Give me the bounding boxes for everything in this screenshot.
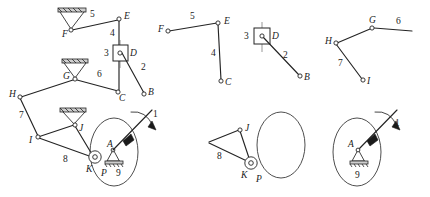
link-8-ij-jkp [209, 130, 239, 142]
panel-crank-a: A 1 9 [333, 110, 400, 186]
label-link-5-assembled: 5 [90, 9, 95, 19]
label-link-9-crankpanel: 9 [355, 170, 360, 180]
label-link-4-dyad: 4 [211, 48, 216, 58]
link-6-left-dyad [337, 29, 370, 43]
label-joint-d-dyad: D [271, 31, 279, 41]
label-joint-p-assembled: P [100, 168, 107, 178]
panel-dyad-efc: F E C 5 4 [157, 11, 232, 87]
label-link-8-jkp: 8 [217, 151, 222, 161]
label-joint-j-assembled: J [79, 123, 84, 133]
rotation-arrowhead-assembled [148, 121, 156, 130]
label-link-7-assembled: 7 [19, 110, 24, 120]
label-joint-b-assembled: B [148, 87, 154, 97]
crank-1-hub-assembled [123, 134, 134, 146]
label-link-4-assembled: 4 [110, 28, 115, 38]
joint-h-assembled [18, 95, 22, 99]
label-link-9-assembled: 9 [116, 168, 121, 178]
joint-e-assembled [117, 17, 121, 21]
link-8-ik-jkp [209, 143, 249, 162]
joint-h-dyad [334, 41, 338, 45]
label-joint-k-assembled: K [85, 164, 93, 174]
panel-dyad-jkp: J K P 8 [209, 112, 305, 184]
joint-j-jkp [238, 128, 242, 132]
label-link-2-assembled: 2 [141, 62, 146, 72]
label-joint-b-dyad: B [304, 72, 310, 82]
label-joint-a-assembled: A [106, 139, 113, 149]
joint-g-assembled [73, 77, 77, 81]
label-link-3-assembled: 3 [104, 48, 109, 58]
joint-i-dyad [361, 78, 365, 82]
label-joint-e-dyad: E [223, 16, 230, 26]
roller-k-hub-assembled [93, 155, 98, 160]
label-joint-h-assembled: H [8, 89, 17, 99]
panel-assembled-mechanism: F E D C B G H I J K P A 5 4 3 2 1 6 7 8 … [8, 8, 158, 186]
joint-f-assembled [69, 28, 73, 32]
figure-canvas: F E D C B G H I J K P A 5 4 3 2 1 6 7 8 … [0, 0, 430, 197]
rotation-arrow-assembled [131, 112, 153, 126]
link-4-dyad [218, 24, 221, 80]
label-joint-e-assembled: E [123, 11, 130, 21]
label-joint-i-assembled: I [28, 135, 33, 145]
label-joint-k-jkp: K [240, 170, 248, 180]
ground-support-f [58, 8, 86, 29]
label-link-7-dyad: 7 [338, 58, 343, 68]
ground-support-a [105, 148, 123, 167]
label-joint-f-assembled: F [61, 29, 68, 39]
link-6-right-dyad [374, 28, 412, 31]
label-link-2-dyad: 2 [283, 50, 288, 60]
crank-1-hub-crankpanel [367, 134, 378, 146]
label-link-1-crankpanel: 1 [395, 118, 400, 128]
crank-1-crankpanel [358, 110, 397, 150]
cam-ellipse-jkp [257, 112, 305, 178]
label-joint-g-dyad: G [369, 15, 376, 25]
joint-f-dyad [166, 29, 170, 33]
label-joint-g-assembled: G [63, 71, 70, 81]
link-8-jk-jkp [240, 131, 250, 161]
joint-d-assembled [118, 51, 122, 55]
label-joint-j-jkp: J [245, 123, 250, 133]
mechanism-diagram: F E D C B G H I J K P A 5 4 3 2 1 6 7 8 … [0, 0, 430, 197]
label-joint-a-crankpanel: A [347, 139, 354, 149]
label-joint-c-dyad: C [225, 77, 232, 87]
label-joint-p-jkp: P [255, 174, 262, 184]
link-6-assembled [77, 80, 118, 91]
joint-b-dyad [298, 74, 302, 78]
label-link-6-assembled: 6 [97, 69, 102, 79]
link-8-ij-assembled [38, 125, 74, 137]
panel-dyad-hgi: H G I 6 7 [324, 15, 412, 86]
joint-j-assembled [73, 123, 77, 127]
link-2-assembled [122, 53, 144, 93]
link-2-dyad [263, 37, 299, 75]
label-link-3-dyad: 3 [244, 31, 249, 41]
label-link-8-assembled: 8 [63, 154, 68, 164]
label-joint-i-dyad: I [366, 76, 371, 86]
label-link-5-dyad: 5 [190, 11, 195, 21]
joint-g-dyad [370, 26, 374, 30]
label-joint-f-dyad: F [157, 24, 164, 34]
joint-i-assembled [36, 135, 40, 139]
link-5-dyad [169, 23, 217, 31]
ground-support-j [60, 108, 86, 124]
panel-slider-dyad-db: D B 3 2 [244, 22, 310, 82]
joint-d-dyad [260, 34, 264, 38]
label-link-1-assembled: 1 [153, 109, 158, 119]
label-joint-h-dyad: H [324, 36, 333, 46]
roller-k-hub-jkp [249, 161, 254, 166]
link-6-left-assembled [21, 80, 73, 97]
joint-e-dyad [216, 21, 220, 25]
ground-support-a-crankpanel [350, 148, 368, 167]
label-joint-c-assembled: C [119, 93, 126, 103]
joint-c-dyad [219, 79, 223, 83]
joint-b-assembled [142, 92, 146, 96]
label-link-6-dyad: 6 [396, 16, 401, 26]
label-joint-d-assembled: D [129, 48, 137, 58]
